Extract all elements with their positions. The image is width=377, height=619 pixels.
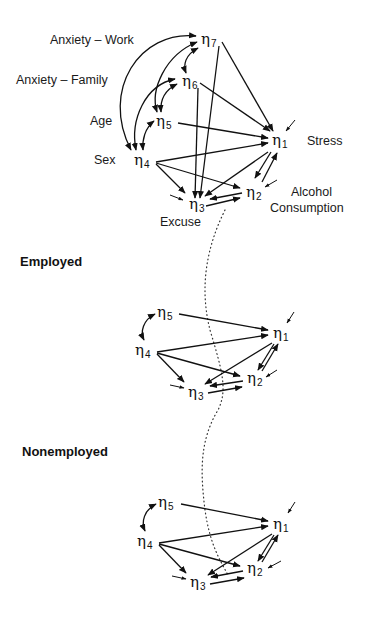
svg-text:4: 4 <box>147 540 153 551</box>
svg-text:5: 5 <box>166 120 172 131</box>
label-excuse: Excuse <box>160 215 201 229</box>
cov-eta7-eta6 <box>185 48 198 73</box>
svg-text:η: η <box>246 183 255 201</box>
section-title-nonemployed: Nonemployed <box>22 444 108 459</box>
disturbance-eta1 <box>286 120 295 131</box>
label-stress: Stress <box>307 134 342 148</box>
cov-eta6-eta5 <box>161 84 177 112</box>
path-eta7-eta1 <box>222 42 273 131</box>
svg-text:3: 3 <box>200 581 206 592</box>
svg-text:7: 7 <box>211 38 217 49</box>
full-model: Anxiety – Work Anxiety – Family Age Sex … <box>16 30 344 229</box>
label-anxiety-work: Anxiety – Work <box>50 33 135 47</box>
path-eta5-eta1 <box>179 314 268 330</box>
path-eta1-eta2 <box>258 535 274 561</box>
cov-eta7-eta4 <box>120 36 196 150</box>
employed-model: Employed η5 η4 η1 η2 η3 <box>20 254 294 402</box>
section-title-employed: Employed <box>20 254 82 269</box>
path-eta2-eta3 <box>210 381 243 386</box>
node-eta2: η2 <box>247 559 263 578</box>
node-eta4: η4 <box>135 341 151 360</box>
svg-text:η: η <box>189 195 198 213</box>
path-eta4-eta3 <box>159 545 186 573</box>
cov-eta5-eta4 <box>142 314 155 340</box>
svg-text:η: η <box>247 369 256 387</box>
path-eta5-eta1 <box>178 123 268 138</box>
svg-text:3: 3 <box>199 203 205 214</box>
nonemployed-model: Nonemployed η5 η4 η1 η2 η3 <box>22 444 295 592</box>
label-anxiety-family: Anxiety – Family <box>16 73 108 87</box>
label-sex: Sex <box>94 153 116 167</box>
disturbance-eta1 <box>288 502 295 513</box>
path-eta7-eta3 <box>200 46 219 198</box>
disturbance-eta2 <box>268 561 281 568</box>
disturbance-eta3 <box>170 385 184 388</box>
svg-text:2: 2 <box>257 567 263 578</box>
svg-text:5: 5 <box>167 311 173 322</box>
path-eta4-eta3 <box>157 354 184 382</box>
node-eta6: η6 <box>182 72 198 91</box>
path-eta4-eta1 <box>157 335 268 352</box>
node-eta1: η1 <box>272 131 288 150</box>
node-eta1: η1 <box>273 324 289 343</box>
svg-text:η: η <box>201 30 210 48</box>
node-eta2: η2 <box>247 369 263 388</box>
svg-text:η: η <box>156 112 165 130</box>
svg-text:η: η <box>190 573 199 591</box>
svg-text:η: η <box>182 72 191 90</box>
node-eta1: η1 <box>273 515 289 534</box>
disturbance-eta1 <box>287 312 294 323</box>
svg-text:4: 4 <box>144 159 150 170</box>
label-consumption: Consumption <box>270 201 344 215</box>
node-eta5: η5 <box>156 112 172 131</box>
node-eta5: η5 <box>157 303 173 322</box>
svg-text:2: 2 <box>257 377 263 388</box>
svg-text:η: η <box>188 383 197 401</box>
disturbance-eta2 <box>265 180 277 187</box>
svg-text:1: 1 <box>283 523 289 534</box>
node-eta3: η3 <box>188 383 204 402</box>
path-eta1-eta2 <box>258 344 274 370</box>
label-alcohol: Alcohol <box>291 185 332 199</box>
path-eta4-eta3 <box>156 164 185 193</box>
path-eta2-eta3 <box>211 571 243 577</box>
cov-eta5-eta4 <box>143 504 156 531</box>
dotted-connector <box>202 210 228 575</box>
svg-text:η: η <box>137 532 146 550</box>
svg-text:1: 1 <box>283 332 289 343</box>
svg-text:η: η <box>157 303 166 321</box>
node-eta4: η4 <box>134 151 150 170</box>
path-eta1-eta3 <box>205 152 268 196</box>
svg-text:η: η <box>272 131 281 149</box>
path-eta5-eta1 <box>181 504 268 521</box>
path-eta2-eta1 <box>262 153 277 182</box>
path-eta6-eta3 <box>195 88 198 198</box>
svg-text:η: η <box>158 493 167 511</box>
svg-text:η: η <box>273 324 282 342</box>
svg-text:η: η <box>247 559 256 577</box>
node-eta3: η3 <box>190 573 206 592</box>
path-eta4-eta1 <box>159 526 268 543</box>
svg-text:η: η <box>135 341 144 359</box>
node-eta4: η4 <box>137 532 153 551</box>
path-eta3-eta2 <box>210 578 244 584</box>
cov-eta5-eta4 <box>143 121 154 150</box>
path-eta4-eta2 <box>156 163 240 188</box>
node-eta2: η2 <box>246 183 262 202</box>
svg-text:η: η <box>273 515 282 533</box>
disturbance-eta2 <box>266 370 277 377</box>
svg-text:5: 5 <box>168 501 174 512</box>
path-eta4-eta2 <box>157 353 240 376</box>
disturbance-eta3 <box>170 195 183 200</box>
svg-text:3: 3 <box>198 391 204 402</box>
label-age: Age <box>90 114 112 128</box>
node-eta7: η7 <box>201 30 217 49</box>
svg-text:1: 1 <box>282 139 288 150</box>
svg-text:4: 4 <box>145 349 151 360</box>
svg-text:η: η <box>134 151 143 169</box>
path-eta3-eta2 <box>208 387 242 393</box>
node-eta5: η5 <box>158 493 174 512</box>
path-eta4-eta1 <box>156 143 268 162</box>
disturbance-eta3 <box>172 576 186 579</box>
node-eta3: η3 <box>189 195 205 214</box>
